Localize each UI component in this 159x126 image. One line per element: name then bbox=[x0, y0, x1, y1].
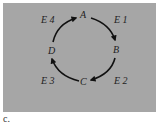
node-a-label: A bbox=[80, 10, 86, 20]
figure-caption: c. bbox=[3, 114, 10, 124]
node-c-label: C bbox=[80, 77, 87, 87]
node-d-label: D bbox=[48, 46, 55, 56]
arrow-c-to-d bbox=[52, 59, 79, 81]
arrow-b-to-c bbox=[91, 58, 115, 80]
edge-e1-label: E 1 bbox=[114, 15, 128, 25]
edge-e2-label: E 2 bbox=[114, 76, 128, 86]
node-b-label: B bbox=[113, 45, 119, 55]
edge-e4-label: E 4 bbox=[41, 15, 55, 25]
edge-e3-label: E 3 bbox=[41, 76, 55, 86]
arrow-d-to-a bbox=[53, 18, 76, 42]
arrow-a-to-b bbox=[91, 18, 115, 40]
